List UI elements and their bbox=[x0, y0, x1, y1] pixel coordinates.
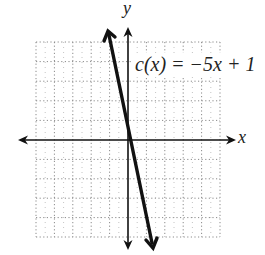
y-axis-label: y bbox=[123, 0, 131, 19]
equation-label: c(x) = −5x + 1 bbox=[133, 53, 257, 76]
coordinate-plane bbox=[0, 0, 265, 255]
x-axis-label: x bbox=[238, 127, 246, 148]
